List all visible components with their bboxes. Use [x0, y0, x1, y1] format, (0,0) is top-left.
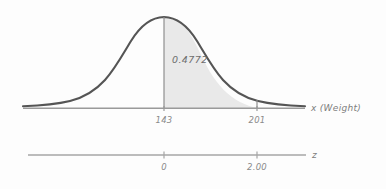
chart-canvas: 0.4772 143 201 x (Weight) 0 2.00 z: [0, 0, 386, 189]
normal-distribution-figure: 0.4772 143 201 x (Weight) 0 2.00 z: [0, 0, 386, 189]
z-tick-label-bound: 2.00: [247, 162, 267, 172]
z-axis-title: z: [311, 150, 317, 160]
x-tick-label-mean: 143: [155, 115, 172, 125]
area-probability-label: 0.4772: [172, 54, 208, 65]
z-tick-label-mean: 0: [161, 162, 167, 172]
x-axis-title: x (Weight): [310, 103, 361, 113]
x-tick-label-bound: 201: [248, 115, 265, 125]
